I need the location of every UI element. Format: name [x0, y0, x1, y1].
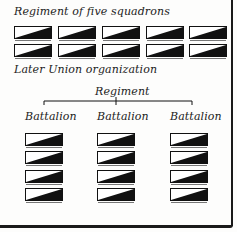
squadron-flag-icon — [189, 44, 227, 57]
squadron-flag-icon — [25, 188, 63, 201]
squadron-flag-icon — [189, 26, 227, 39]
squadron-flag-icon — [14, 26, 52, 39]
squadron-flag-icon — [97, 133, 135, 146]
battalion-label-2: Battalion — [97, 110, 149, 123]
squadron-flag-icon — [170, 151, 208, 164]
squadron-flag-icon — [170, 170, 208, 183]
battalion-label-1: Battalion — [25, 110, 77, 123]
squadron-flag-icon — [58, 44, 96, 57]
squadron-flag-icon — [25, 133, 63, 146]
squadron-flag-icon — [102, 26, 140, 39]
squadron-flag-icon — [25, 170, 63, 183]
bottom-section-title: Later Union organization — [14, 63, 157, 76]
squadron-flag-icon — [170, 133, 208, 146]
squadron-flag-icon — [97, 170, 135, 183]
squadron-flag-icon — [170, 188, 208, 201]
frame-border-bottom — [0, 225, 233, 228]
squadron-flag-icon — [97, 151, 135, 164]
battalion-label-3: Battalion — [170, 110, 222, 123]
squadron-flag-icon — [146, 26, 184, 39]
squadron-flag-icon — [146, 44, 184, 57]
top-section-title: Regiment of five squadrons — [14, 5, 170, 18]
squadron-flag-icon — [97, 188, 135, 201]
squadron-flag-icon — [25, 151, 63, 164]
squadron-flag-icon — [58, 26, 96, 39]
regiment-bracket — [40, 96, 196, 106]
squadron-flag-icon — [102, 44, 140, 57]
cavalry-organization-diagram: Regiment of five squadrons Later Union o… — [0, 0, 237, 232]
frame-border-right — [231, 0, 233, 226]
squadron-flag-icon — [14, 44, 52, 57]
